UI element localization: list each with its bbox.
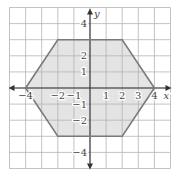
x-tick-label: −4: [18, 90, 33, 101]
y-axis-arrow-up-icon: [87, 9, 93, 15]
x-tick-label: 3: [135, 90, 141, 101]
x-tick-label: −2: [50, 90, 65, 101]
y-tick-label: −1: [72, 99, 87, 110]
y-tick-label: 4: [81, 18, 87, 29]
x-axis-label: x: [164, 90, 170, 101]
y-tick-label: −2: [72, 115, 87, 126]
x-tick-label: 4: [151, 90, 157, 101]
y-tick-label: −4: [72, 147, 87, 158]
y-tick-label: 2: [81, 50, 87, 61]
x-tick-label: 1: [103, 90, 109, 101]
x-tick-label: 2: [119, 90, 125, 101]
y-axis-label: y: [93, 8, 100, 19]
coordinate-plane: −4−2−11234421−1−2−4 x y: [0, 0, 174, 181]
y-tick-label: 1: [81, 66, 87, 77]
